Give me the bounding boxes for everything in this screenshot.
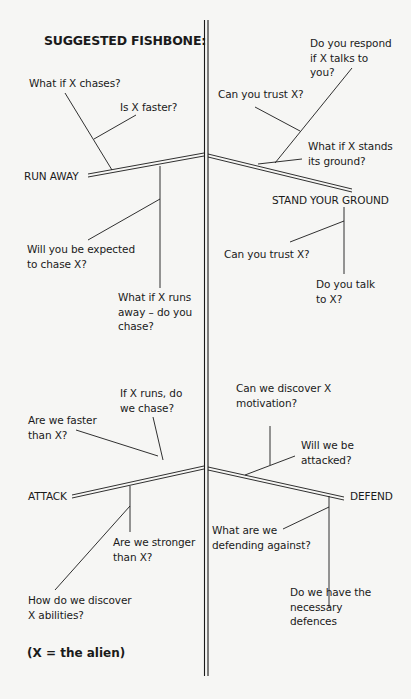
category-attack: ATTACK [28,489,67,504]
bone-run-away [88,153,204,177]
question-are-we-faster: Are we faster than X? [28,413,97,442]
question-discover-abilities: How do we discover X abilities? [28,593,132,622]
diagram-title: SUGGESTED FISHBONE: [44,33,206,48]
question-will-we-be-attacked: Will we be attacked? [301,438,354,467]
category-stand-your-ground: STAND YOUR GROUND [272,193,389,208]
question-can-you-trust-x-2: Can you trust X? [224,247,310,262]
question-necessary-defences: Do we have the necessary defences [290,585,371,629]
question-what-if-x-chases: What if X chases? [29,76,121,91]
question-do-you-talk-to-x: Do you talk to X? [316,277,375,306]
question-discover-motivation: Can we discover X motivation? [236,381,331,410]
bone-defend [208,467,344,500]
question-are-we-stronger: Are we stronger than X? [113,535,195,564]
footnote-legend: (X = the alien) [27,646,125,660]
question-x-runs-away: What if X runs away – do you chase? [118,290,192,334]
category-run-away: RUN AWAY [24,169,79,184]
fishbone-diagram: SUGGESTED FISHBONE: RUN AWAY STAND YOUR … [0,0,411,699]
question-is-x-faster: Is X faster? [120,100,177,115]
question-expected-to-chase: Will you be expected to chase X? [27,242,135,271]
category-defend: DEFEND [350,489,393,504]
question-if-x-runs-chase: If X runs, do we chase? [120,386,182,415]
question-defending-against: What are we defending against? [212,523,311,552]
spine [205,20,209,676]
question-can-you-trust-x-1: Can you trust X? [218,87,304,102]
bone-attack [72,466,204,498]
question-x-stands-ground: What if X stands its ground? [308,139,393,168]
question-respond-if-x-talks: Do you respond if X talks to you? [310,36,392,80]
